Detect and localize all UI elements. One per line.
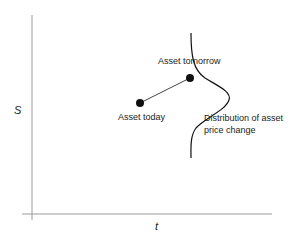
asset-today-dot	[136, 99, 144, 107]
distribution-label-line2: price change	[204, 125, 256, 136]
price-move-line	[140, 78, 190, 103]
distribution-curve	[191, 33, 229, 158]
x-axis-label: t	[155, 220, 158, 232]
asset-tomorrow-dot	[186, 74, 194, 82]
asset-tomorrow-label: Asset tomorrow	[158, 56, 221, 67]
asset-today-label: Asset today	[118, 112, 165, 123]
distribution-label-line1: Distribution of asset	[204, 113, 283, 124]
y-axis-label: S	[14, 104, 21, 116]
